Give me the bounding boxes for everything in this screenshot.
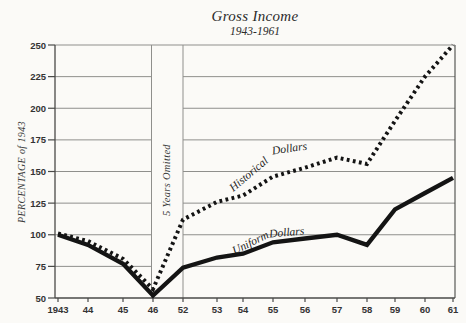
x-tick-label: 53: [212, 304, 223, 315]
x-tick-label: 58: [362, 304, 373, 315]
x-tick-label: 60: [420, 304, 431, 315]
y-tick-label: 200: [30, 103, 46, 114]
scanned-chart-page: Gross Income 1943-1961 PERCENTAGE of 194…: [0, 0, 466, 323]
y-tick-label: 125: [30, 198, 47, 209]
x-tick-label: 46: [148, 304, 159, 315]
y-tick-label: 75: [35, 261, 46, 272]
y-tick-label: 150: [30, 166, 46, 177]
y-tick-label: 175: [30, 134, 47, 145]
x-tick-label: 52: [178, 304, 189, 315]
x-tick-label: 44: [83, 304, 94, 315]
x-tick-label: 45: [118, 304, 129, 315]
x-tick-label: 61: [448, 304, 459, 315]
x-tick-label: 59: [390, 304, 401, 315]
series-label-historical-dollars: Dollars: [270, 140, 308, 157]
x-tick-label: 55: [268, 304, 279, 315]
y-tick-label: 50: [35, 293, 46, 304]
y-tick-label: 250: [30, 40, 46, 51]
x-tick-label: 56: [300, 304, 311, 315]
y-tick-label: 225: [30, 71, 47, 82]
y-tick-label: 100: [30, 229, 46, 240]
x-tick-label: 1943: [47, 304, 68, 315]
x-tick-label: 57: [332, 304, 343, 315]
series-label-historical-dollars: Historical: [226, 154, 270, 194]
x-tick-label: 54: [238, 304, 249, 315]
line-chart: 5075100125150175200225250194344454652535…: [0, 0, 466, 323]
